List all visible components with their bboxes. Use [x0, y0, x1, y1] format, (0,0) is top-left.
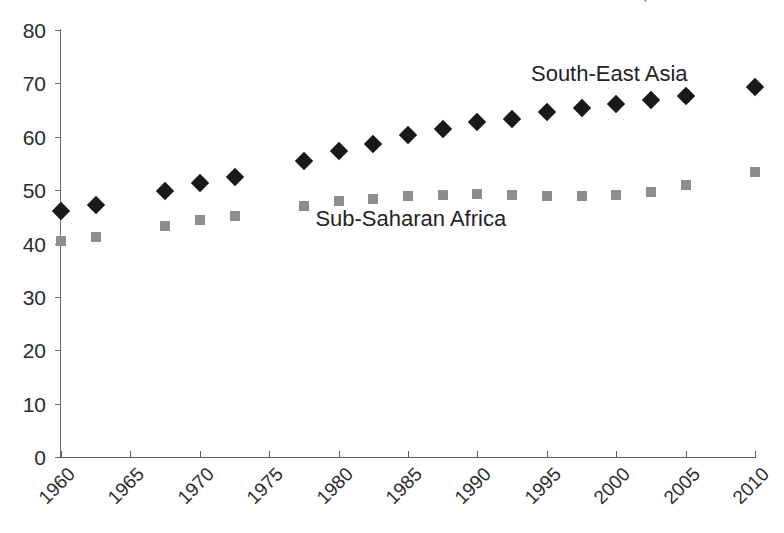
data-point-diamond: [364, 135, 382, 153]
data-point-square: [91, 232, 101, 242]
data-point-square: [299, 201, 309, 211]
data-point-square: [750, 167, 760, 177]
y-axis-tick-label: 0: [0, 447, 46, 468]
series-label-south-east-asia: South-East Asia: [531, 63, 688, 85]
y-axis-tick-label: 60: [0, 126, 46, 147]
x-axis-tick: [130, 451, 131, 458]
data-point-square: [611, 190, 621, 200]
data-point-square: [507, 190, 517, 200]
data-point-square: [368, 194, 378, 204]
data-point-square: [56, 236, 66, 246]
y-axis-tick-label: 70: [0, 73, 46, 94]
data-point-diamond: [572, 99, 590, 117]
scatter-chart: · · · · · · · · · · | · 0102030405060708…: [0, 0, 784, 533]
x-axis-tick-label: 2000: [586, 464, 633, 511]
series-label-sub-saharan-africa: Sub-Saharan Africa: [315, 208, 506, 230]
data-point-diamond: [642, 91, 660, 109]
data-point-square: [577, 191, 587, 201]
x-axis-tick-label: 1975: [239, 464, 286, 511]
y-axis-tick-label: 30: [0, 286, 46, 307]
x-axis-tick-label: 1995: [517, 464, 564, 511]
data-point-diamond: [225, 168, 243, 186]
y-axis-tick-label: 50: [0, 180, 46, 201]
x-axis-tick: [200, 451, 201, 458]
data-point-square: [646, 187, 656, 197]
x-axis-tick-label: 1960: [31, 464, 78, 511]
data-point-diamond: [86, 196, 104, 214]
data-point-square: [403, 191, 413, 201]
data-point-diamond: [52, 202, 70, 220]
x-axis-tick: [339, 451, 340, 458]
x-axis-tick: [755, 451, 756, 458]
y-axis-tick: [55, 297, 61, 298]
data-point-square: [334, 196, 344, 206]
x-axis-tick: [408, 451, 409, 458]
data-point-square: [681, 180, 691, 190]
data-point-diamond: [329, 142, 347, 160]
data-point-diamond: [607, 95, 625, 113]
y-axis-tick: [55, 137, 61, 138]
x-axis-tick: [616, 451, 617, 458]
data-point-diamond: [503, 109, 521, 127]
data-point-square: [230, 211, 240, 221]
y-axis-tick: [55, 404, 61, 405]
data-point-square: [438, 190, 448, 200]
data-point-diamond: [746, 77, 764, 95]
x-axis-tick-label: 1980: [309, 464, 356, 511]
data-point-diamond: [468, 113, 486, 131]
cropped-title-remnant: · · · · · · · · · · | ·: [556, 0, 782, 2]
y-axis-tick-label: 20: [0, 340, 46, 361]
x-axis-tick-label: 1970: [170, 464, 217, 511]
y-axis-tick: [55, 350, 61, 351]
x-axis-tick: [547, 451, 548, 458]
x-axis-tick-label: 1965: [100, 464, 147, 511]
x-axis-tick-label: 2005: [656, 464, 703, 511]
x-axis-tick: [477, 451, 478, 458]
data-point-square: [195, 215, 205, 225]
x-axis-tick-label: 1990: [447, 464, 494, 511]
data-point-diamond: [676, 86, 694, 104]
data-point-diamond: [538, 102, 556, 120]
y-axis-tick: [55, 30, 61, 31]
y-axis-tick: [55, 83, 61, 84]
y-axis-tick-label: 10: [0, 393, 46, 414]
data-point-diamond: [433, 120, 451, 138]
x-axis-tick: [61, 451, 62, 458]
x-axis-tick: [269, 451, 270, 458]
y-axis-tick-label: 80: [0, 20, 46, 41]
data-point-diamond: [191, 173, 209, 191]
data-point-square: [472, 189, 482, 199]
data-point-diamond: [399, 126, 417, 144]
y-axis-tick-label: 40: [0, 233, 46, 254]
y-axis-tick: [55, 190, 61, 191]
data-point-square: [160, 221, 170, 231]
data-point-diamond: [295, 152, 313, 170]
data-point-diamond: [156, 181, 174, 199]
x-axis-tick-label: 1985: [378, 464, 425, 511]
x-axis-tick: [686, 451, 687, 458]
data-point-square: [542, 191, 552, 201]
x-axis-tick-label: 2010: [725, 464, 772, 511]
